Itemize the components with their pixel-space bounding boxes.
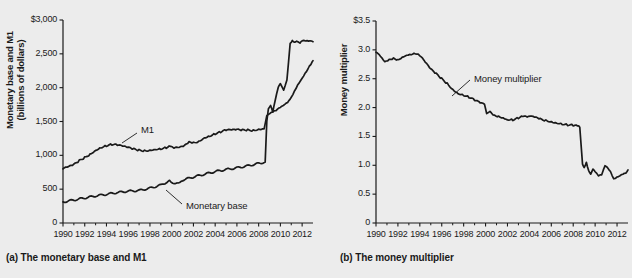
panel-a-ytick-label: $3,000: [15, 14, 57, 24]
panel-b-ytick-label: 2.0: [328, 102, 370, 112]
panel-a-ytick-label: 2,000: [15, 82, 57, 92]
series-label-monetary-base: Monetary base: [186, 200, 248, 211]
panel-a-ytick-label: 500: [15, 183, 57, 193]
panel-a-xtick-label: 2012: [287, 229, 317, 239]
panel-a-ytick-label: 0: [15, 217, 57, 227]
panel-b-plot: [316, 0, 632, 250]
panel-b-ytick-label: 1.5: [328, 130, 370, 140]
panel-monetary-base-and-m1: Monetary base and M1 (billions of dollar…: [0, 0, 316, 278]
panel-money-multiplier: Money multiplier 00.51.01.52.02.53.0$3.5…: [316, 0, 632, 278]
panel-b-caption: (b) The money multiplier: [340, 252, 454, 263]
panel-b-ytick-label: 1.0: [328, 159, 370, 169]
panel-a-ytick-label: 1,000: [15, 149, 57, 159]
panel-b-ytick-label: 2.5: [328, 73, 370, 83]
series-label-money-multiplier: Money multiplier: [474, 73, 542, 84]
panel-a-ytick-label: 1,500: [15, 116, 57, 126]
panel-b-ytick-label: $3.5: [328, 15, 370, 25]
figure-container: Monetary base and M1 (billions of dollar…: [0, 0, 632, 278]
panel-b-ytick-label: 0.5: [328, 188, 370, 198]
panel-a-ytick-label: 2,500: [15, 48, 57, 58]
panel-b-xtick-label: 2012: [602, 229, 632, 239]
series-label-m1: M1: [141, 124, 154, 135]
panel-b-ytick-label: 0: [328, 217, 370, 227]
panel-a-caption: (a) The monetary base and M1: [6, 252, 147, 263]
panel-b-ytick-label: 3.0: [328, 44, 370, 54]
